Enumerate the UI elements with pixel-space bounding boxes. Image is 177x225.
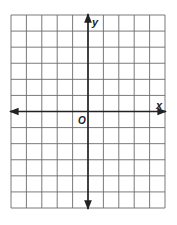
y-axis-label: y xyxy=(91,16,99,28)
origin-label: O xyxy=(78,115,86,126)
x-axis-label: x xyxy=(155,99,163,111)
coordinate-grid: x y O xyxy=(0,0,177,225)
